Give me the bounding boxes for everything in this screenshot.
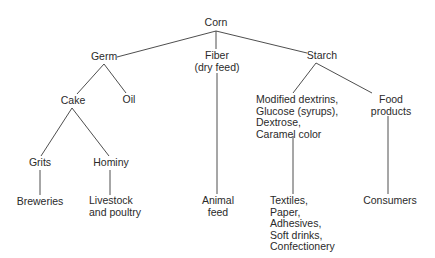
node-breweries: Breweries xyxy=(17,196,64,208)
edge-starch-food xyxy=(316,63,372,93)
node-fiber: Fiber (dry feed) xyxy=(195,50,240,73)
node-livestock: Livestock and poultry xyxy=(89,195,141,218)
node-breweries-label: Breweries xyxy=(17,195,64,207)
node-food-line1: Food xyxy=(371,94,411,106)
node-food-products: Food products xyxy=(371,94,411,117)
node-food-line2: products xyxy=(371,106,411,118)
node-textiles: Textiles, Paper, Adhesives, Soft drinks,… xyxy=(270,195,335,253)
node-hominy: Hominy xyxy=(93,157,129,169)
node-modified-dextrins: Modified dextrins, Glucose (syrups), Dex… xyxy=(256,94,338,140)
node-oil: Oil xyxy=(123,94,136,106)
node-textiles-line1: Textiles, xyxy=(270,195,335,207)
node-modified-line4: Caramel color xyxy=(256,129,338,141)
node-hominy-label: Hominy xyxy=(93,156,129,168)
node-cake-label: Cake xyxy=(61,94,86,106)
node-grits: Grits xyxy=(29,157,51,169)
node-oil-label: Oil xyxy=(123,93,136,105)
node-textiles-line5: Confectionery xyxy=(270,241,335,253)
edge-starch-modified xyxy=(293,63,316,93)
node-animal-feed-line2: feed xyxy=(202,207,234,219)
node-consumers: Consumers xyxy=(363,195,417,207)
node-consumers-label: Consumers xyxy=(363,194,417,206)
node-corn: Corn xyxy=(205,17,228,29)
node-animal-feed-line1: Animal xyxy=(202,195,234,207)
node-fiber-line2: (dry feed) xyxy=(195,62,240,74)
node-fiber-line1: Fiber xyxy=(195,50,240,62)
edge-cake-hominy xyxy=(72,108,109,156)
edge-cake-grits xyxy=(41,108,72,156)
node-starch: Starch xyxy=(307,50,337,62)
edge-germ-cake xyxy=(77,64,104,94)
node-cake: Cake xyxy=(61,95,86,107)
node-grits-label: Grits xyxy=(29,156,51,168)
node-germ: Germ xyxy=(91,51,117,63)
node-livestock-line1: Livestock xyxy=(89,195,141,207)
node-modified-line1: Modified dextrins, xyxy=(256,94,338,106)
node-animal-feed: Animal feed xyxy=(202,195,234,218)
node-livestock-line2: and poultry xyxy=(89,207,141,219)
edge-germ-oil xyxy=(104,64,126,93)
node-corn-label: Corn xyxy=(205,16,228,28)
node-germ-label: Germ xyxy=(91,50,117,62)
node-starch-label: Starch xyxy=(307,49,337,61)
tree-edges xyxy=(0,0,435,258)
